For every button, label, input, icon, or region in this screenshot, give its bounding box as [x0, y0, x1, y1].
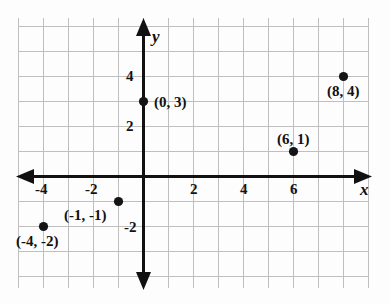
x-tick-label-2: 2: [190, 182, 198, 197]
point-label-8-4: (8, 4): [327, 84, 360, 99]
y-tick-label-4: 4: [126, 69, 134, 84]
x-tick-label-6: 6: [290, 182, 298, 197]
x-axis-label: x: [360, 181, 369, 198]
data-point--1--1: [114, 197, 123, 206]
data-point-6-1: [289, 147, 298, 156]
x-tick-label-4: 4: [240, 182, 248, 197]
data-point-0-3: [139, 97, 148, 106]
coordinate-plane-graph: -4 -2 2 4 6 4 2 -2 y x (0, 3) (8, 4) (6,…: [0, 0, 390, 304]
point-label--4--2: (-4, -2): [16, 234, 58, 249]
y-axis-arrow-down: [136, 272, 151, 290]
x-tick-label--2: -2: [85, 182, 98, 197]
y-axis: [136, 18, 151, 290]
y-tick-label--2: -2: [124, 220, 137, 235]
grid-lines: [18, 18, 369, 288]
data-point-8-4: [339, 72, 348, 81]
point-label-6-1: (6, 1): [277, 132, 310, 147]
point-label--1--1: (-1, -1): [64, 208, 106, 223]
data-point--4--2: [39, 222, 48, 231]
x-tick-label--4: -4: [35, 182, 48, 197]
point-label-0-3: (0, 3): [154, 95, 187, 110]
y-tick-label-2: 2: [126, 119, 134, 134]
plot-area: [0, 0, 390, 304]
y-axis-label: y: [152, 28, 160, 45]
